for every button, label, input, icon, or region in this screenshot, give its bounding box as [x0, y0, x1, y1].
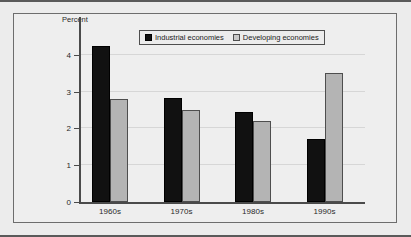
legend-entry: Industrial economies — [145, 33, 224, 42]
bar-industrial — [92, 46, 110, 202]
y-tick-label: 0 — [67, 198, 71, 207]
x-tick-label: 1970s — [156, 207, 208, 216]
bar-developing — [182, 110, 200, 202]
bar-industrial — [307, 139, 325, 202]
bar-developing — [325, 73, 343, 202]
y-tick-label: 4 — [67, 50, 71, 59]
bar-industrial — [235, 112, 253, 202]
legend-label: Developing economies — [243, 33, 319, 42]
top-divider-rule — [0, 0, 411, 2]
legend-swatch-developing-icon — [233, 34, 240, 41]
bar-group — [164, 40, 200, 202]
x-axis-line — [79, 202, 365, 204]
legend-label: Industrial economies — [155, 33, 224, 42]
y-tick-label: 3 — [67, 87, 71, 96]
y-axis-line — [79, 17, 81, 204]
bottom-divider-rule — [0, 235, 411, 237]
y-tick-label: 1 — [67, 161, 71, 170]
bar-group — [307, 40, 343, 202]
y-tick-mark — [74, 202, 79, 203]
y-tick-label: 2 — [67, 124, 71, 133]
x-tick-label: 1960s — [84, 207, 136, 216]
y-tick-mark — [74, 165, 79, 166]
chart-figure: Percent 01234 1960s1970s1980s1990s Indus… — [0, 0, 411, 237]
y-tick-mark — [74, 55, 79, 56]
y-tick-mark — [74, 128, 79, 129]
y-axis-label: Percent — [62, 15, 88, 24]
bar-industrial — [164, 98, 182, 202]
legend-entry: Developing economies — [233, 33, 319, 42]
bar-group — [92, 40, 128, 202]
legend-swatch-industrial-icon — [145, 34, 152, 41]
bar-group — [235, 40, 271, 202]
bar-developing — [253, 121, 271, 202]
x-tick-label: 1990s — [299, 207, 351, 216]
plot-area: 01234 1960s1970s1980s1990s — [79, 40, 365, 204]
bar-developing — [110, 99, 128, 202]
x-tick-label: 1980s — [227, 207, 279, 216]
chart-legend: Industrial economiesDeveloping economies — [139, 30, 325, 45]
y-tick-mark — [74, 92, 79, 93]
